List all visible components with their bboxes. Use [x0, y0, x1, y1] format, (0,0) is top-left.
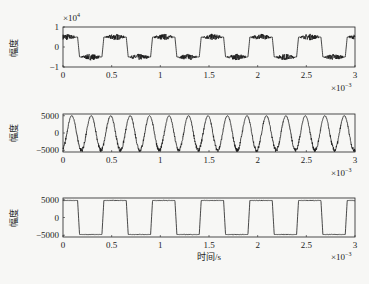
y-axis-label-2: 幅度 — [8, 124, 19, 142]
x-tick-label: 0.5 — [106, 155, 118, 165]
y-tick-label: −5000 — [36, 145, 60, 155]
x-tick-label: 1 — [158, 155, 163, 165]
y-tick-label: −5000 — [36, 230, 60, 240]
x-tick-label: 0 — [61, 155, 66, 165]
x-tick-label: 0 — [61, 240, 66, 250]
x-tick-label: 2.5 — [301, 240, 313, 250]
y-tick-label: 0 — [55, 128, 60, 138]
x-tick-label: 2.5 — [301, 155, 313, 165]
y-tick-label: −1 — [49, 62, 59, 72]
x-tick-label: 1 — [158, 240, 163, 250]
x-tick-label: 3 — [353, 155, 358, 165]
y-tick-label: 5000 — [41, 195, 60, 205]
x-tick-label: 1.5 — [203, 70, 215, 80]
x-axis-label-3: 时间/s — [197, 251, 222, 262]
x-tick-label: 1.5 — [203, 240, 215, 250]
x-tick-label: 0.5 — [106, 70, 118, 80]
figure: ×104 幅度 10−1 00.511.522.53 ×10−3 幅度 5000… — [0, 0, 369, 284]
y-tick-label: 0 — [55, 213, 60, 223]
x-tick-label: 2 — [255, 155, 260, 165]
y-axis-label-3: 幅度 — [8, 209, 19, 227]
x-tick-label: 1.5 — [203, 155, 215, 165]
x-tick-label: 1 — [158, 70, 163, 80]
x-tick-label: 3 — [353, 70, 358, 80]
x-tick-label: 3 — [353, 240, 358, 250]
x-tick-label: 2 — [255, 240, 260, 250]
x-tick-label: 0.5 — [106, 240, 118, 250]
y-tick-label: 1 — [55, 22, 60, 32]
y-tick-label: 5000 — [41, 111, 60, 121]
y-tick-label: 0 — [55, 42, 60, 52]
x-tick-label: 2.5 — [301, 70, 313, 80]
x-tick-label: 0 — [61, 70, 66, 80]
y-axis-label-1: 幅度 — [8, 39, 19, 57]
x-tick-label: 2 — [255, 70, 260, 80]
